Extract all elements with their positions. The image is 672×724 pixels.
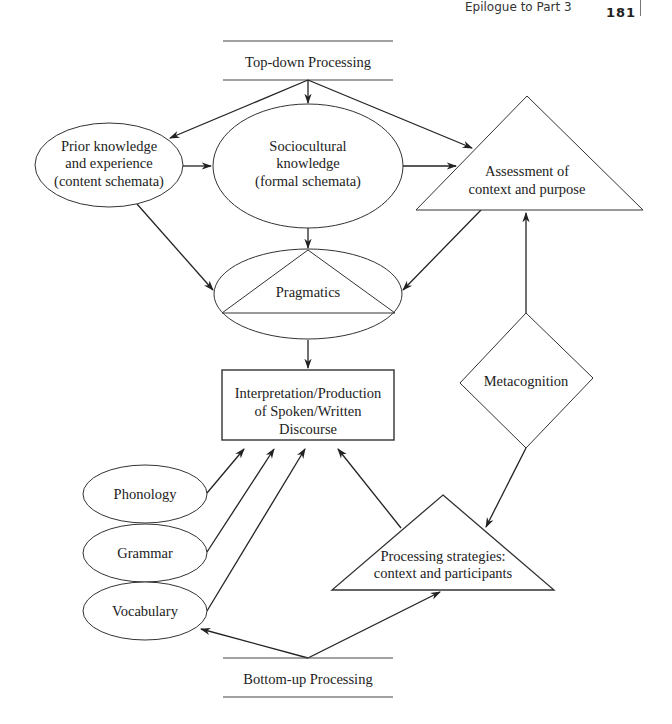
edge-prior-pragmatics bbox=[137, 204, 213, 290]
node-grammar: Grammar bbox=[83, 524, 207, 582]
pragmatics-label: Pragmatics bbox=[276, 284, 341, 300]
edge-bottomup-vocabulary bbox=[201, 629, 308, 658]
edge-phonology-interpretation bbox=[207, 449, 244, 493]
node-metacognition: Metacognition bbox=[460, 313, 593, 448]
sociocultural-line-2: knowledge bbox=[276, 155, 340, 171]
assessment-line-2: context and purpose bbox=[469, 181, 586, 197]
sociocultural-line-3: (formal schemata) bbox=[255, 173, 361, 190]
node-vocabulary: Vocabulary bbox=[83, 582, 207, 640]
top-down-band: Top-down Processing bbox=[223, 41, 393, 80]
processing-strategies-line-2: context and participants bbox=[374, 565, 513, 581]
edge-assessment-pragmatics bbox=[403, 210, 481, 290]
node-prior-knowledge: Prior knowledge and experience (content … bbox=[35, 123, 183, 207]
node-interpretation: Interpretation/Production of Spoken/Writ… bbox=[222, 370, 394, 440]
bottom-up-label: Bottom-up Processing bbox=[243, 671, 372, 687]
metacognition-label: Metacognition bbox=[484, 373, 569, 389]
vocabulary-label: Vocabulary bbox=[112, 603, 179, 619]
edge-metacognition-strategies bbox=[486, 448, 526, 527]
prior-knowledge-line-1: Prior knowledge bbox=[61, 138, 157, 154]
node-sociocultural: Sociocultural knowledge (formal schemata… bbox=[213, 104, 403, 228]
sociocultural-line-1: Sociocultural bbox=[269, 138, 346, 154]
interpretation-line-3: Discourse bbox=[279, 421, 337, 437]
phonology-label: Phonology bbox=[114, 486, 178, 502]
node-pragmatics: Pragmatics bbox=[214, 249, 402, 339]
edge-bottomup-strategies bbox=[308, 592, 440, 658]
interpretation-line-1: Interpretation/Production bbox=[235, 385, 382, 401]
edge-strategies-interpretation bbox=[338, 449, 401, 528]
top-down-label: Top-down Processing bbox=[245, 54, 371, 70]
processing-strategies-line-1: Processing strategies: bbox=[380, 548, 505, 564]
node-assessment: Assessment of context and purpose bbox=[416, 96, 643, 210]
bottom-up-band: Bottom-up Processing bbox=[223, 658, 393, 697]
node-phonology: Phonology bbox=[83, 465, 207, 523]
edge-grammar-interpretation bbox=[207, 449, 274, 552]
node-processing-strategies: Processing strategies: context and parti… bbox=[332, 495, 554, 590]
prior-knowledge-line-3: (content schemata) bbox=[54, 173, 164, 190]
processing-diagram: Top-down Processing Prior knowledge and … bbox=[0, 0, 672, 724]
grammar-label: Grammar bbox=[117, 545, 173, 561]
assessment-line-1: Assessment of bbox=[485, 163, 569, 179]
prior-knowledge-line-2: and experience bbox=[65, 155, 152, 171]
interpretation-line-2: of Spoken/Written bbox=[255, 403, 363, 419]
